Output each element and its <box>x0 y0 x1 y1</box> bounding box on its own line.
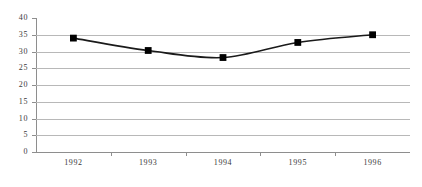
data-point-1994 <box>220 54 227 61</box>
line-chart: 0510152025303540 19921993199419951996 <box>0 0 422 187</box>
data-series-layer <box>0 0 422 187</box>
data-point-1992 <box>70 35 77 42</box>
data-point-1995 <box>294 39 301 46</box>
data-point-1996 <box>369 31 376 38</box>
data-point-1993 <box>145 47 152 54</box>
